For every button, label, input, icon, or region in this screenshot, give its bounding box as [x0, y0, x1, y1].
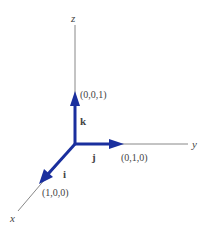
x-axis-label: x — [9, 212, 15, 224]
point-j-label: (0,1,0) — [121, 152, 148, 164]
arrowhead-k — [70, 91, 80, 106]
y-axis-label: y — [191, 138, 197, 150]
arrowhead-j — [109, 139, 124, 149]
point-i-label: (1,0,0) — [42, 187, 69, 199]
vector-i-label: i — [63, 168, 66, 180]
z-axis-label: z — [70, 12, 76, 24]
vector-k-label: k — [80, 115, 87, 127]
vector-i — [48, 144, 75, 174]
vector-j-label: j — [91, 151, 96, 163]
coordinate-diagram: z y x k j i (0,0,1) (0,1,0) (1,0,0) — [0, 0, 217, 234]
point-k-label: (0,0,1) — [80, 89, 107, 101]
